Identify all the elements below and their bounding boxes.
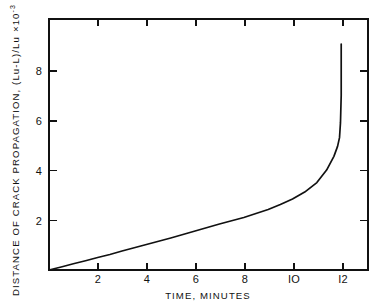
y-axis-title-text: DISTANCE OF CRACK PROPAGATION, (Lu-L)/Lu	[10, 36, 21, 296]
y-axis-title-scale: ×10	[10, 12, 21, 32]
x-tick-label: 2	[95, 273, 101, 285]
x-tick-label: 6	[193, 273, 199, 285]
y-tick-label: 6	[36, 115, 42, 127]
y-axis-title: DISTANCE OF CRACK PROPAGATION, (Lu-L)/Lu…	[9, 4, 21, 296]
figure-container: 2 4 6 8 IO I2 2 4 6 8 TIME, MINUTES DIST…	[0, 0, 386, 308]
y-tick-label: 4	[36, 165, 42, 177]
data-curve	[49, 44, 341, 270]
x-axis-ticks	[98, 263, 343, 270]
x-axis-ticks-top	[98, 19, 343, 26]
y-axis-ticks	[49, 71, 57, 220]
y-tick-labels: 2 4 6 8	[36, 65, 42, 226]
x-tick-label: IO	[288, 273, 300, 285]
crack-propagation-chart: 2 4 6 8 IO I2 2 4 6 8 TIME, MINUTES DIST…	[0, 0, 386, 308]
x-tick-labels: 2 4 6 8 IO I2	[95, 273, 348, 285]
plot-frame	[49, 19, 368, 270]
y-tick-label: 2	[36, 215, 42, 227]
x-axis-title: TIME, MINUTES	[165, 290, 251, 301]
x-tick-label: 4	[144, 273, 150, 285]
y-axis-title-exponent: -3	[9, 4, 16, 12]
y-axis-ticks-right	[360, 71, 368, 220]
y-axis-title-group: DISTANCE OF CRACK PROPAGATION, (Lu-L)/Lu…	[9, 4, 21, 296]
y-tick-label: 8	[36, 65, 42, 77]
x-tick-label: 8	[242, 273, 248, 285]
x-tick-label: I2	[338, 273, 348, 285]
